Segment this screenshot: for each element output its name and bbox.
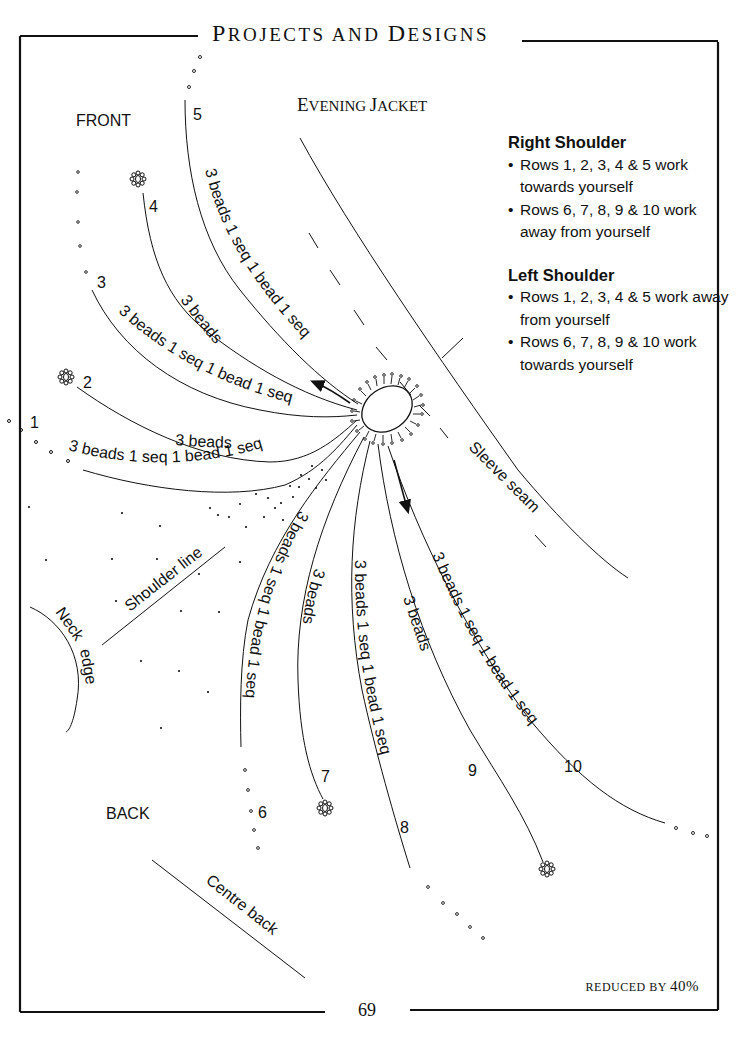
right-shoulder-heading: Right Shoulder — [508, 131, 733, 154]
centre-back-text: Centre back — [203, 871, 282, 938]
row-7-pattern: 3 beads — [300, 567, 329, 625]
page-number: 69 — [358, 1000, 376, 1021]
row-4-pattern: 3 beads — [178, 292, 226, 347]
edge-label: edge — [77, 648, 100, 686]
row-9-number: 9 — [468, 762, 477, 779]
scatter-dots — [28, 465, 327, 729]
flower-motif-row-9 — [539, 861, 555, 877]
row-8-number: 8 — [400, 819, 409, 836]
sleeve-seam-label: Sleeve seam — [466, 438, 543, 515]
row-9-pattern: 3 beads — [400, 594, 434, 653]
row-7-number: 7 — [321, 768, 330, 785]
flower-motif-row-2 — [58, 369, 74, 385]
row-10-number: 10 — [564, 758, 582, 775]
row-4-number: 4 — [149, 198, 158, 215]
row-6-curve — [241, 432, 360, 747]
flower-motif-row-4 — [130, 171, 146, 187]
book-page: PROJECTS AND DESIGNS EVENING JACKET — [0, 0, 746, 1050]
row-4-pattern-text: 3 beads — [178, 292, 226, 347]
reduction-note-text: REDUCED BY — [586, 980, 670, 994]
row-10-pattern: 3 beads 1 seq 1 bead 1 seq — [429, 549, 542, 727]
centre-back-label: Centre back — [203, 871, 282, 938]
row-5-curve — [185, 100, 358, 404]
reduction-note: REDUCED BY 40% — [586, 978, 699, 995]
left-shoulder-item-1: Rows 1, 2, 3, 4 & 5 work away from yours… — [508, 286, 733, 331]
row-patterns: 3 beads 1 seq 1 bead 1 seq 3 beads 3 bea… — [67, 167, 542, 757]
sleeve-seam-text: Sleeve seam — [466, 438, 543, 515]
flower-motif-row-7 — [317, 800, 333, 816]
row-1-pattern-text: 3 beads 1 seq 1 bead 1 seq — [67, 434, 264, 465]
instructions-legend: Right Shoulder Rows 1, 2, 3, 4 & 5 work … — [508, 131, 733, 376]
row-2-pattern-text: 3 beads — [175, 431, 232, 451]
row-7-pattern-text: 3 beads — [300, 567, 329, 625]
central-sequin — [351, 373, 425, 446]
neck-label: Neck — [53, 604, 88, 644]
row-8-pattern-text: 3 beads 1 seq 1 bead 1 seq — [352, 560, 395, 756]
row-1-pattern: 3 beads 1 seq 1 bead 1 seq — [67, 434, 264, 465]
row-9-pattern-text: 3 beads — [400, 594, 434, 653]
row-5-pattern: 3 beads 1 seq 1 bead 1 seq — [202, 167, 314, 341]
row-9-curve — [378, 444, 543, 862]
right-shoulder-item-1: Rows 1, 2, 3, 4 & 5 work towards yoursel… — [508, 154, 733, 199]
row-2-number: 2 — [83, 374, 92, 391]
row-10-pattern-text: 3 beads 1 seq 1 bead 1 seq — [429, 549, 542, 727]
shoulder-line-text: Shoulder line — [121, 543, 205, 614]
shoulder-line-label: Shoulder line — [121, 543, 205, 614]
row-5-number: 5 — [193, 106, 202, 123]
left-shoulder-heading: Left Shoulder — [508, 264, 733, 287]
back-label: BACK — [106, 805, 150, 822]
row-8-pattern: 3 beads 1 seq 1 bead 1 seq — [352, 560, 395, 756]
row-3-number: 3 — [97, 274, 106, 291]
right-shoulder-item-2: Rows 6, 7, 8, 9 & 10 work away from your… — [508, 199, 733, 244]
front-label: FRONT — [76, 112, 131, 129]
reduction-percent: 40% — [670, 978, 699, 994]
row-5-pattern-text: 3 beads 1 seq 1 bead 1 seq — [202, 167, 314, 341]
row-1-number: 1 — [30, 414, 39, 431]
row-6-number: 6 — [258, 804, 267, 821]
left-shoulder-item-2: Rows 6, 7, 8, 9 & 10 work towards yourse… — [508, 331, 733, 376]
row-2-pattern: 3 beads — [175, 431, 232, 451]
